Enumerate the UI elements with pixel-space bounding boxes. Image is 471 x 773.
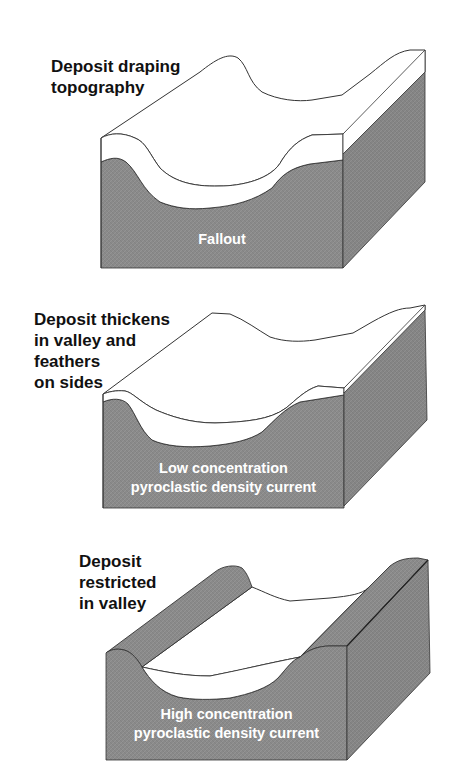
- label-deposit-restricted: Deposit restricted in valley: [79, 551, 156, 614]
- label-deposit-thickens: Deposit thickens in valley and feathers …: [34, 309, 170, 393]
- label-deposit-draping: Deposit draping topography: [51, 56, 180, 98]
- label-fallout: Fallout: [101, 230, 343, 249]
- label-high-concentration-pdc: High concentration pyroclastic density c…: [106, 705, 347, 743]
- label-low-concentration-pdc: Low concentration pyroclastic density cu…: [103, 459, 344, 497]
